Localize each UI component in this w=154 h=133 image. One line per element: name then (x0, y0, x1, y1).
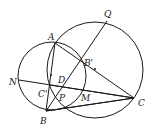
label-c-prime: C' (38, 89, 47, 99)
geometry-diagram: A B C Q N B' C' D P M (0, 0, 154, 133)
label-d: D (57, 75, 65, 85)
label-m: M (80, 93, 91, 103)
label-p: P (58, 93, 66, 103)
label-c: C (138, 98, 145, 108)
label-b: B (39, 116, 47, 126)
arrow-mark-2 (50, 74, 52, 76)
label-b-prime: B' (83, 58, 93, 68)
small-circle (18, 42, 86, 110)
label-q: Q (104, 9, 112, 19)
segment-ac (55, 43, 134, 98)
arrow-mark (94, 68, 96, 70)
label-a: A (47, 32, 55, 42)
label-n: N (8, 77, 18, 87)
segment-bq (46, 21, 107, 111)
